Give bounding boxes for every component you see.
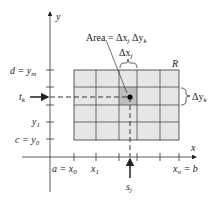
riemann-sum-diagram: y x R Area = Δxj Δyk Δxj Δyk d = ym y1 c…: [0, 0, 221, 201]
dx-brace: [120, 59, 137, 68]
y-axis-label: y: [55, 11, 61, 22]
dy-label: Δyk: [192, 91, 207, 104]
s-label: sj: [126, 181, 132, 194]
region-label: R: [171, 58, 178, 69]
x-tick-x1: x1: [90, 163, 99, 176]
x-axis-label: x: [190, 142, 196, 153]
x-tick-xn: xn = b: [172, 163, 198, 176]
dx-label: Δxj: [119, 47, 132, 60]
region-grid: [74, 70, 179, 140]
dy-brace: [181, 88, 190, 105]
x-tick-x0: a = x0: [52, 163, 77, 176]
y-tick-ym: d = ym: [10, 65, 36, 78]
area-label: Area = Δxj Δyk: [86, 32, 147, 45]
y-tick-y0: c = y0: [15, 134, 40, 147]
sample-point: [127, 94, 132, 99]
y-tick-y1: y1: [31, 116, 40, 129]
t-label: tk: [19, 91, 26, 104]
